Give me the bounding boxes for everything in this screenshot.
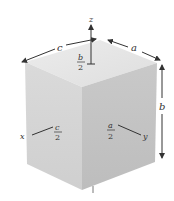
box-diagram: z b 2 c a b x c 2 a 2 <box>0 0 174 201</box>
a-label: a <box>131 42 137 53</box>
y-axis-label: y <box>142 132 148 141</box>
svg-text:a: a <box>108 121 113 130</box>
c-label: c <box>57 42 63 53</box>
z-axis-label: z <box>88 15 94 24</box>
svg-text:b: b <box>78 53 83 62</box>
b-dimension: b <box>159 65 165 158</box>
svg-text:2: 2 <box>55 133 60 142</box>
svg-text:2: 2 <box>78 63 83 72</box>
svg-text:2: 2 <box>108 132 113 141</box>
x-axis-label: x <box>20 132 25 141</box>
svg-text:c: c <box>55 123 60 132</box>
b-label: b <box>159 101 165 112</box>
